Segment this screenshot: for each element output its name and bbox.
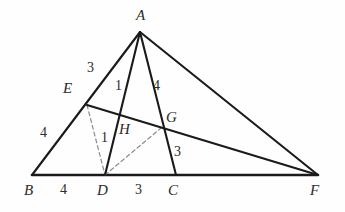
point-label-B: B bbox=[24, 183, 33, 198]
point-label-C: C bbox=[168, 183, 178, 198]
length-AE: 3 bbox=[87, 61, 94, 75]
segment-AC bbox=[140, 32, 176, 175]
diagram-canvas bbox=[0, 0, 345, 212]
point-label-H: H bbox=[119, 122, 130, 137]
length-BD: 4 bbox=[60, 183, 67, 197]
point-label-A: A bbox=[136, 8, 145, 23]
segment-AF bbox=[140, 32, 318, 175]
point-label-F: F bbox=[310, 183, 319, 198]
segment-DG bbox=[105, 128, 161, 175]
segment-EF bbox=[87, 105, 318, 175]
point-label-E: E bbox=[63, 81, 72, 96]
length-AG: 4 bbox=[153, 79, 160, 93]
length-HD: 1 bbox=[101, 131, 108, 145]
length-GC: 3 bbox=[174, 145, 181, 159]
length-EB: 4 bbox=[40, 126, 47, 140]
geometry-figure: ABCDEFGH31441343 bbox=[0, 0, 345, 212]
point-label-D: D bbox=[97, 183, 108, 198]
segment-AB bbox=[32, 32, 140, 175]
length-AH: 1 bbox=[115, 79, 122, 93]
point-label-G: G bbox=[166, 110, 177, 125]
length-DC: 3 bbox=[135, 183, 142, 197]
